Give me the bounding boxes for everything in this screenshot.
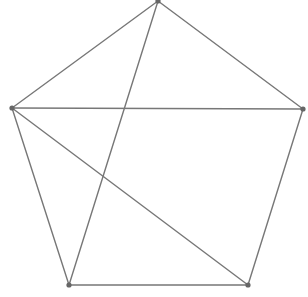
edge-left-bottom-left xyxy=(12,108,69,285)
graph-diagram xyxy=(0,0,308,297)
diagram-canvas xyxy=(0,0,308,297)
edge-left-bottom-right xyxy=(12,108,248,285)
edge-left-right xyxy=(12,108,303,109)
node-right xyxy=(300,106,305,111)
edge-top-right xyxy=(158,1,303,109)
edge-right-bottom-right xyxy=(248,109,303,285)
edge-top-bottom-left xyxy=(69,1,158,285)
node-bottom-right xyxy=(245,282,250,287)
node-left xyxy=(9,105,14,110)
node-bottom-left xyxy=(66,282,71,287)
edges-layer xyxy=(12,1,303,285)
edge-top-left xyxy=(12,1,158,108)
